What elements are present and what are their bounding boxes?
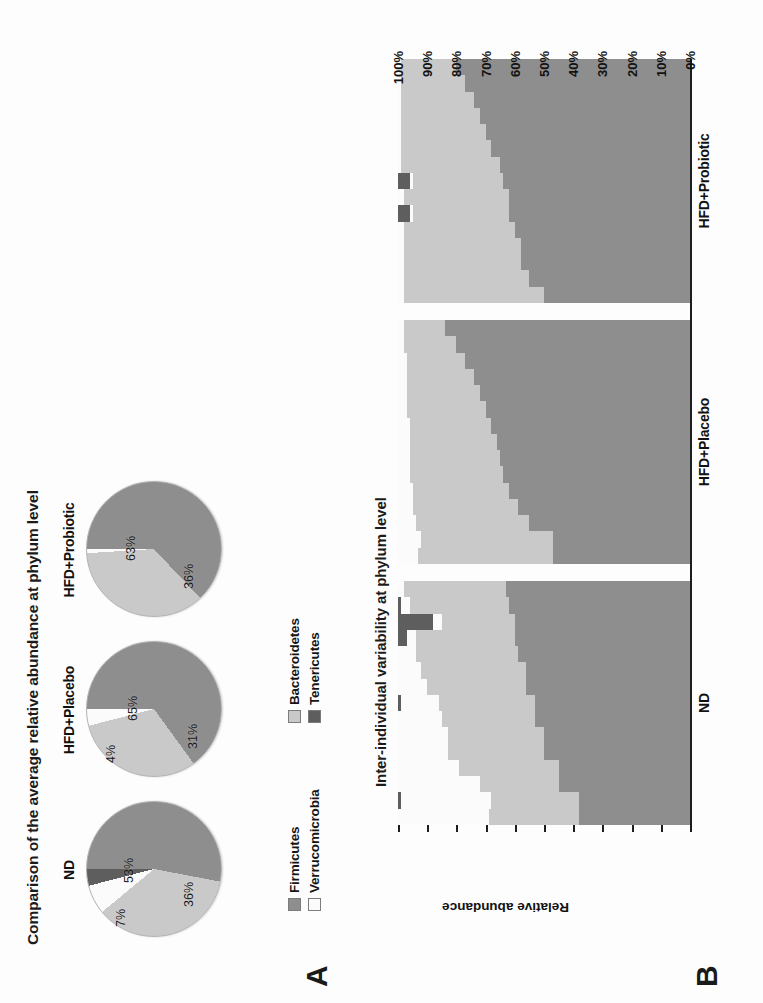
bar-segment [509,597,690,613]
bar-segment [486,401,690,417]
legend-label: Tenericutes [307,632,322,705]
stacked-bar [398,385,690,401]
bar-segment [401,92,474,108]
legend-swatch-icon [288,898,301,911]
bar-segment [439,695,535,711]
bar-segment [404,271,530,287]
bar-segment [398,662,421,678]
stacked-bar [398,173,690,189]
bar-segment [448,727,544,743]
bar-segment [418,548,552,564]
bar-segment [398,450,410,466]
y-axis-tick-label: 40% [566,51,581,77]
legend-column: FirmicutesVerrucomicrobia [286,789,326,911]
bar-segment [416,646,518,662]
pie-chart [86,481,222,617]
bar-segment [544,287,690,303]
bar-segment [404,287,544,303]
bar-segment [526,662,690,678]
x-axis-group-label: HFD+Probiotic [696,59,712,303]
pie-slice-label: 31% [186,724,200,749]
bar-segment [427,679,526,695]
stacked-bar [398,581,690,597]
y-axis-tick-label: 50% [537,51,552,77]
bar-segment [526,679,690,695]
stacked-bar [398,369,690,385]
bar-segment [398,614,433,630]
bar-group [398,581,690,825]
bar-segment [398,646,416,662]
bar-segment [404,189,509,205]
bar-segment [515,222,690,238]
bar-segment [398,630,407,646]
stacked-bar [398,614,690,630]
y-axis-tick-label: 20% [624,51,639,77]
stacked-bar [398,75,690,91]
bar-segment [535,695,690,711]
bar-segment [398,205,410,221]
bar-segment [515,614,690,630]
bar-segment [518,646,690,662]
bar-segment [401,157,500,173]
bar-segment [398,173,410,189]
stacked-bar [398,140,690,156]
stacked-bar [398,238,690,254]
stacked-bar [398,597,690,613]
bar-segment [442,614,515,630]
bar-segment [401,108,480,124]
bar-segment [421,531,552,547]
bar-segment [503,466,690,482]
bar-segment [407,630,416,646]
bar-segment [416,630,515,646]
stacked-bar [398,499,690,515]
bar-segment [398,744,448,760]
bar-segment [506,581,690,597]
bar-segment [407,369,474,385]
bar-segment [398,760,459,776]
bar-segment [398,369,407,385]
bar-segment [401,792,492,808]
bar-segment [410,466,503,482]
bar-segment [491,418,690,434]
pie-slice-label: 4% [104,745,118,763]
bar-segment [529,515,690,531]
stacked-bar [398,662,690,678]
bar-segment [401,695,439,711]
legend-item: Firmicutes [286,789,303,911]
bar-segment [398,679,427,695]
y-axis-tick-label: 10% [653,51,668,77]
bar-segment [413,499,518,515]
bar-segment [448,744,544,760]
y-axis-tick-label: 80% [449,51,464,77]
bar-segment [509,205,690,221]
bar-segment [553,548,690,564]
bar-segment [398,809,489,825]
stacked-bar [398,466,690,482]
stacked-bar [398,320,690,336]
bar-segment [413,483,509,499]
bar-segment [410,418,492,434]
stacked-bar [398,205,690,221]
bar-segment [421,662,526,678]
bar-segment [465,75,690,91]
bar-segment [404,336,457,352]
bar-segment [474,92,690,108]
panel-b-letter: B [690,965,724,987]
y-axis-tick-label: 30% [595,51,610,77]
bar-segment [474,369,690,385]
bar-segment [398,353,407,369]
bar-segment [544,744,690,760]
bar-segment [442,711,535,727]
bar-segment [559,760,690,776]
pie-group: HFD+Placebo65%31%4% [60,635,270,785]
pie-title: HFD+Placebo [60,635,78,785]
bar-segment [503,173,690,189]
bar-group-gap [398,564,690,581]
y-axis-tick-label: 60% [507,51,522,77]
bar-segment [398,466,410,482]
bar-segment [579,809,690,825]
bar-segment [398,418,410,434]
stacked-bar [398,727,690,743]
pie-slice-label: 36% [182,564,196,589]
stacked-bar [398,418,690,434]
